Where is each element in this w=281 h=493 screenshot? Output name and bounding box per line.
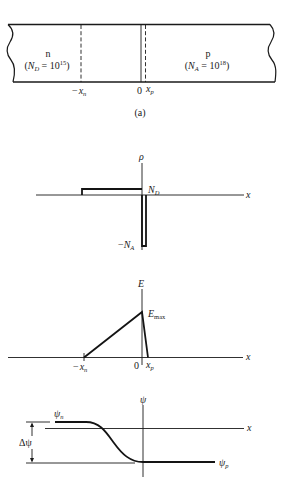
rho-x-axis-label: x (245, 189, 251, 200)
bar-left-break (7, 25, 15, 83)
psi-n-label: ψn (54, 408, 63, 420)
e-zero-label: 0 (134, 360, 139, 371)
panel-a-bar: n (ND = 1015) p (NA = 1018) −xn 0 xp (a) (7, 25, 276, 120)
psi-x-axis-label: x (246, 422, 252, 433)
delta-psi-arrowhead-down-icon (30, 458, 34, 463)
emax-label: Emax (147, 308, 166, 320)
n-doping-label: (ND = 1015) (24, 59, 69, 72)
potential-plot: ψ x ψn ψp Δψ (19, 394, 252, 477)
acceptor-charge-block (142, 195, 146, 246)
e-x-axis-label: x (245, 351, 251, 362)
panel-a-caption: (a) (134, 107, 145, 119)
rho-axis-label: ρ (138, 151, 144, 162)
zero-marker-label: 0 (137, 85, 142, 96)
delta-psi-label: Δψ (19, 437, 32, 448)
e-axis-label: E (137, 278, 144, 289)
e-neg-xn-label: −xn (73, 361, 87, 373)
p-doping-label: (NA = 1018) (185, 59, 229, 72)
neg-xn-marker-label: −xn (72, 85, 86, 97)
charge-density-plot: ρ x ND −NA (36, 151, 251, 251)
psi-p-label: ψp (219, 457, 229, 469)
field-profile-triangle (84, 312, 148, 358)
donor-charge-block (82, 189, 142, 195)
n-type-label: n (46, 48, 51, 59)
delta-psi-arrowhead-up-icon (30, 423, 34, 428)
bar-right-break (268, 25, 276, 83)
electric-field-plot: E x Emax −xn 0 xp (8, 278, 251, 373)
p-type-label: p (206, 48, 211, 59)
na-level-label: −NA (118, 239, 134, 251)
e-xp-label: xp (145, 359, 154, 371)
potential-curve (55, 422, 215, 462)
psi-axis-label: ψ (140, 394, 147, 405)
xp-marker-label: xp (145, 83, 154, 95)
pn-junction-figure: n (ND = 1015) p (NA = 1018) −xn 0 xp (a)… (0, 0, 281, 493)
nd-level-label: ND (147, 184, 160, 196)
